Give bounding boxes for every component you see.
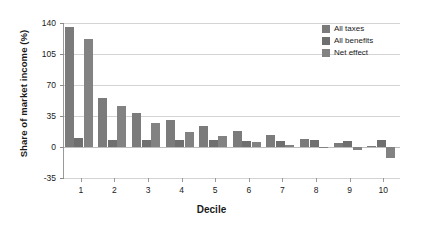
bar (185, 132, 194, 147)
legend-swatch-icon (322, 49, 330, 57)
x-tick-mark (350, 178, 351, 182)
bar-chart: Share of market income (%) 14010570350-3… (0, 0, 423, 234)
bar (386, 147, 395, 158)
legend-label: All benefits (334, 36, 373, 46)
y-tick-mark (60, 147, 64, 148)
bar (300, 139, 309, 147)
x-tick-label: 7 (269, 185, 295, 195)
bar (276, 141, 285, 147)
bar (151, 123, 160, 147)
bar (319, 147, 328, 148)
y-tick-mark (60, 116, 64, 117)
bar (285, 145, 294, 147)
bar (175, 140, 184, 147)
decile-group (233, 23, 261, 178)
bar (367, 146, 376, 147)
y-tick-label: 0 (16, 142, 56, 152)
bar (233, 131, 242, 147)
bar (132, 113, 141, 147)
x-tick-mark (114, 178, 115, 182)
x-tick-label: 3 (135, 185, 161, 195)
decile-group (199, 23, 227, 178)
x-tick-label: 2 (101, 185, 127, 195)
y-tick-label: 140 (16, 18, 56, 28)
x-tick-mark (81, 178, 82, 182)
x-tick-mark (148, 178, 149, 182)
x-tick-mark (316, 178, 317, 182)
x-tick-label: 1 (68, 185, 94, 195)
y-axis-title: Share of market income (%) (18, 9, 29, 179)
bar (209, 140, 218, 147)
chart-legend: All taxesAll benefitsNet effect (322, 24, 373, 58)
y-tick-label: 105 (16, 49, 56, 59)
legend-swatch-icon (322, 37, 330, 45)
x-tick-label: 5 (202, 185, 228, 195)
bar (74, 138, 83, 147)
x-tick-mark (215, 178, 216, 182)
bar (242, 141, 251, 147)
x-tick-mark (383, 178, 384, 182)
bar (65, 27, 74, 147)
legend-label: Net effect (334, 48, 368, 58)
x-axis-title: Decile (0, 204, 423, 215)
y-tick-label: 35 (16, 111, 56, 121)
bar (334, 143, 343, 147)
decile-group (132, 23, 160, 178)
bar (98, 98, 107, 147)
x-tick-mark (249, 178, 250, 182)
decile-group (266, 23, 294, 178)
bar (142, 140, 151, 147)
bar (218, 136, 227, 147)
y-tick-label: 70 (16, 80, 56, 90)
y-tick-label: -35 (16, 173, 56, 183)
y-tick-mark (60, 85, 64, 86)
x-tick-label: 10 (370, 185, 396, 195)
y-tick-mark (60, 54, 64, 55)
decile-group (166, 23, 194, 178)
bar (343, 141, 352, 147)
decile-group (98, 23, 126, 178)
x-tick-label: 9 (337, 185, 363, 195)
x-tick-label: 4 (169, 185, 195, 195)
bar (108, 140, 117, 147)
bar (377, 140, 386, 147)
bar (252, 142, 261, 147)
legend-label: All taxes (334, 24, 364, 34)
bar (117, 106, 126, 147)
x-tick-mark (182, 178, 183, 182)
bar (199, 126, 208, 147)
bar (166, 120, 175, 147)
x-tick-mark (282, 178, 283, 182)
bar (266, 135, 275, 147)
decile-group (65, 23, 93, 178)
x-tick-label: 6 (236, 185, 262, 195)
legend-item[interactable]: All taxes (322, 24, 373, 34)
bar (310, 140, 319, 147)
x-tick-label: 8 (303, 185, 329, 195)
legend-item[interactable]: Net effect (322, 48, 373, 58)
y-tick-mark (60, 23, 64, 24)
legend-swatch-icon (322, 25, 330, 33)
bar (353, 147, 362, 150)
legend-item[interactable]: All benefits (322, 36, 373, 46)
bar (84, 39, 93, 147)
y-tick-mark (60, 178, 64, 179)
